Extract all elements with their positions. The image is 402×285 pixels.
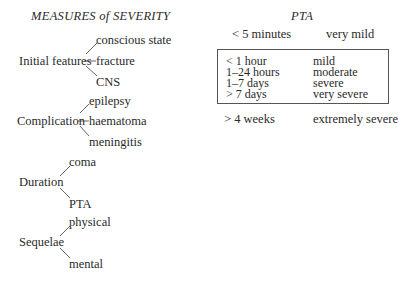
pta-top-duration: < 5 minutes: [232, 27, 291, 41]
group-complication: Complication: [17, 114, 85, 128]
child-coma: coma: [69, 155, 96, 169]
pta-title: PTA: [291, 9, 313, 23]
child-physical: physical: [69, 215, 111, 229]
child-conscious-state: conscious state: [96, 33, 171, 47]
child-meningitis: meningitis: [89, 135, 142, 149]
child-pta: PTA: [69, 197, 92, 211]
child-haematoma: haematoma: [89, 114, 147, 128]
group-sequelae: Sequelae: [19, 235, 64, 249]
measures-title: MEASURES of SEVERITY: [31, 9, 170, 23]
pta-bottom-severity: extremely severe: [313, 112, 398, 126]
pta-duration: > 7 days: [226, 88, 267, 100]
child-cns: CNS: [96, 75, 120, 89]
child-fracture: fracture: [96, 54, 135, 68]
pta-row: > 7 days very severe: [218, 88, 388, 100]
group-duration: Duration: [19, 175, 63, 189]
child-epilepsy: epilepsy: [89, 94, 131, 108]
child-mental: mental: [69, 257, 103, 271]
pta-boxed-table: < 1 hour mild 1–24 hours moderate 1–7 da…: [217, 49, 389, 104]
pta-bottom-duration: > 4 weeks: [224, 112, 275, 126]
group-initial-features: Initial features: [19, 54, 92, 68]
pta-severity: very severe: [313, 88, 368, 100]
pta-top-severity: very mild: [326, 27, 374, 41]
